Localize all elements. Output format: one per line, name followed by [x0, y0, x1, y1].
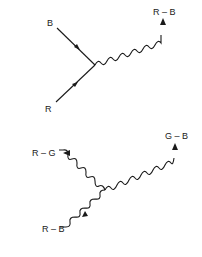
label-r-g: R – G	[32, 148, 56, 158]
label-r-b-bottom: R – B	[42, 224, 65, 234]
feynman-diagrams: B R R – B R – G G – B R – B	[0, 0, 202, 257]
arrow-head-rb	[160, 18, 166, 25]
label-g-b: G – B	[165, 131, 188, 141]
gluon-line-rb-bottom	[60, 190, 105, 227]
label-b: B	[47, 18, 53, 28]
label-r-b-top: R – B	[153, 7, 176, 17]
label-r: R	[45, 104, 52, 114]
gluon-line-gb	[105, 158, 174, 190]
gluon-line-rb	[95, 35, 161, 65]
gluon-line-rg	[59, 150, 105, 190]
bottom-vertex-diagram: R – G G – B R – B	[32, 131, 188, 234]
arrow-head-rb-bottom	[82, 211, 88, 217]
arrow-head-gb	[172, 143, 178, 150]
top-vertex-diagram: B R R – B	[45, 7, 176, 114]
